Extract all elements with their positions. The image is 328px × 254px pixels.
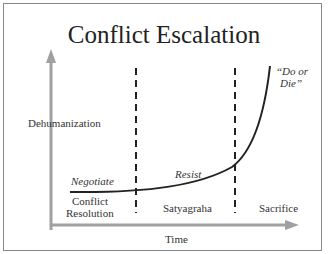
label-resist: Resist (175, 168, 201, 180)
zone-label-resolution: Resolution (66, 207, 114, 219)
zone-label-conflict: Conflict (72, 195, 108, 207)
label-die: Die” (280, 77, 302, 89)
escalation-curve (70, 66, 270, 192)
diagram-title: Conflict Escalation (0, 21, 328, 49)
zone-label-sacrifice: Sacrifice (259, 202, 298, 214)
x-axis-arrow-icon (285, 220, 299, 230)
label-negotiate: Negotiate (71, 175, 114, 187)
y-axis-arrow-icon (46, 49, 56, 63)
label-do-or: “Do or (276, 65, 308, 77)
x-axis-label: Time (165, 233, 188, 245)
y-axis-label: Dehumanization (28, 117, 101, 129)
zone-label-satyagraha: Satyagraha (163, 202, 212, 214)
